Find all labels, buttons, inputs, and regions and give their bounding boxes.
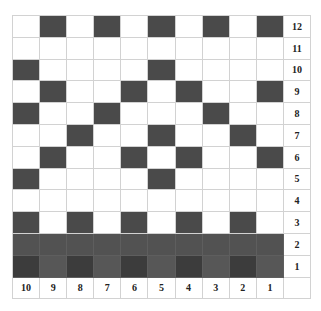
- column-label: 3: [203, 278, 230, 300]
- grid-cell: [176, 212, 203, 234]
- column-label: 9: [40, 278, 67, 300]
- row-label: 5: [284, 169, 311, 191]
- grid-cell: [40, 169, 67, 191]
- grid-cell: [13, 169, 40, 191]
- grid-cell: [67, 169, 94, 191]
- grid-cell: [67, 16, 94, 38]
- grid-cell: [148, 60, 175, 82]
- row-label: 4: [284, 190, 311, 212]
- grid-cell: [203, 234, 230, 256]
- grid-cell: [13, 16, 40, 38]
- grid-cell: [230, 212, 257, 234]
- grid-cell: [40, 256, 67, 278]
- grid-cell: [230, 147, 257, 169]
- grid-cell: [121, 234, 148, 256]
- grid-cell: [257, 16, 284, 38]
- grid-cell: [203, 16, 230, 38]
- grid-cell: [67, 234, 94, 256]
- grid-cell: [94, 256, 121, 278]
- grid-cell: [230, 234, 257, 256]
- grid-cell: [148, 125, 175, 147]
- corner-cell: [284, 278, 311, 300]
- grid-cell: [257, 256, 284, 278]
- grid-cell: [40, 125, 67, 147]
- grid-cell: [148, 234, 175, 256]
- grid-cell: [203, 256, 230, 278]
- grid-cell: [121, 256, 148, 278]
- grid-cell: [67, 256, 94, 278]
- grid-cell: [94, 38, 121, 60]
- grid-cell: [121, 125, 148, 147]
- grid-cell: [13, 81, 40, 103]
- grid-cell: [94, 16, 121, 38]
- grid-cell: [40, 81, 67, 103]
- row-label: 7: [284, 125, 311, 147]
- grid-cell: [94, 103, 121, 125]
- grid-cell: [40, 60, 67, 82]
- grid-cell: [203, 125, 230, 147]
- column-label: 8: [67, 278, 94, 300]
- grid-cell: [148, 256, 175, 278]
- grid-cell: [94, 60, 121, 82]
- grid-cell: [67, 81, 94, 103]
- grid-cell: [230, 60, 257, 82]
- grid-cell: [148, 190, 175, 212]
- grid-cell: [257, 190, 284, 212]
- grid-cell: [176, 38, 203, 60]
- column-label: 6: [121, 278, 148, 300]
- grid-cell: [121, 147, 148, 169]
- grid-cell: [203, 81, 230, 103]
- grid-cell: [230, 125, 257, 147]
- grid-cell: [176, 81, 203, 103]
- grid-cell: [148, 147, 175, 169]
- grid-cell: [148, 169, 175, 191]
- grid-cell: [257, 103, 284, 125]
- row-label: 11: [284, 38, 311, 60]
- grid-cell: [230, 190, 257, 212]
- grid-cell: [203, 147, 230, 169]
- column-label: 4: [176, 278, 203, 300]
- grid-cell: [40, 38, 67, 60]
- grid-cell: [67, 147, 94, 169]
- grid-cell: [94, 190, 121, 212]
- column-label: 5: [148, 278, 175, 300]
- grid-cell: [148, 38, 175, 60]
- grid-cell: [148, 103, 175, 125]
- grid-cell: [176, 60, 203, 82]
- grid-cell: [176, 234, 203, 256]
- grid-cell: [176, 256, 203, 278]
- grid-cell: [176, 147, 203, 169]
- grid-cell: [148, 212, 175, 234]
- grid-cell: [121, 16, 148, 38]
- grid-cell: [230, 256, 257, 278]
- grid-cell: [257, 234, 284, 256]
- grid-cell: [148, 16, 175, 38]
- grid-cell: [257, 81, 284, 103]
- grid-cell: [203, 169, 230, 191]
- grid-cell: [230, 81, 257, 103]
- grid-cell: [121, 169, 148, 191]
- grid-cell: [203, 103, 230, 125]
- grid-cell: [13, 60, 40, 82]
- grid-cell: [67, 212, 94, 234]
- grid-cell: [67, 60, 94, 82]
- grid-cell: [67, 190, 94, 212]
- grid-cell: [121, 81, 148, 103]
- grid-cell: [176, 169, 203, 191]
- column-label: 1: [257, 278, 284, 300]
- row-label: 6: [284, 147, 311, 169]
- grid-cell: [176, 103, 203, 125]
- grid-cell: [257, 60, 284, 82]
- grid-cell: [230, 169, 257, 191]
- grid-cell: [67, 103, 94, 125]
- grid-cell: [67, 125, 94, 147]
- grid-cell: [40, 234, 67, 256]
- grid-cell: [40, 147, 67, 169]
- grid-cell: [230, 16, 257, 38]
- column-label: 2: [230, 278, 257, 300]
- grid-cell: [203, 60, 230, 82]
- grid-cell: [176, 125, 203, 147]
- grid-cell: [40, 16, 67, 38]
- column-label: 7: [94, 278, 121, 300]
- grid-cell: [121, 212, 148, 234]
